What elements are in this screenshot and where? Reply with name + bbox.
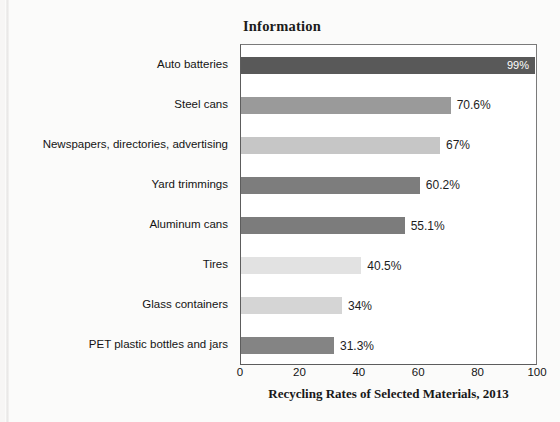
x-tick-label: 60 — [412, 366, 425, 378]
category-label: Aluminum cans — [149, 216, 228, 233]
bar-value-label: 34% — [348, 299, 372, 313]
bar — [241, 57, 535, 74]
bar-value-label: 55.1% — [411, 219, 445, 233]
bar-value-label: 40.5% — [367, 259, 401, 273]
x-tick-label: 0 — [237, 366, 243, 378]
category-label: Glass containers — [142, 296, 228, 313]
bar-row: 99% — [241, 57, 538, 74]
x-tick-label: 40 — [352, 366, 365, 378]
bar-value-label: 60.2% — [426, 178, 460, 192]
category-label: Auto batteries — [157, 56, 228, 73]
bar — [241, 137, 440, 154]
bar-row: 40.5% — [241, 257, 538, 274]
category-label: Tires — [203, 256, 228, 273]
bar-value-label: 70.6% — [457, 98, 491, 112]
bar — [241, 217, 405, 234]
category-label: Steel cans — [174, 96, 228, 113]
bar — [241, 337, 334, 354]
category-axis-labels: Auto batteriesSteel cansNewspapers, dire… — [0, 44, 234, 365]
chart-caption: Recycling Rates of Selected Materials, 2… — [240, 386, 537, 402]
bar — [241, 257, 361, 274]
bar-row: 55.1% — [241, 217, 538, 234]
bar — [241, 297, 342, 314]
category-label: Yard trimmings — [152, 176, 228, 193]
bar-row: 60.2% — [241, 177, 538, 194]
bar-row: 34% — [241, 297, 538, 314]
x-tick-label: 20 — [293, 366, 306, 378]
bar-row: 70.6% — [241, 97, 538, 114]
x-tick-label: 80 — [471, 366, 484, 378]
bar-value-label: 99% — [507, 59, 529, 71]
bar — [241, 97, 451, 114]
bar-value-label: 67% — [446, 138, 470, 152]
chart-title: Information — [243, 18, 321, 35]
x-tick-label: 100 — [527, 366, 546, 378]
category-label: PET plastic bottles and jars — [89, 336, 228, 353]
bar-value-label: 31.3% — [340, 339, 374, 353]
bar-row: 31.3% — [241, 337, 538, 354]
category-label: Newspapers, directories, advertising — [43, 136, 228, 153]
value-axis-ticks: 020406080100 — [240, 366, 537, 384]
figure-container: Information Auto batteriesSteel cansNews… — [0, 0, 560, 422]
bar — [241, 177, 420, 194]
plot-area: 99%70.6%67%60.2%55.1%40.5%34%31.3% — [240, 44, 537, 365]
bar-row: 67% — [241, 137, 538, 154]
bars-layer: 99%70.6%67%60.2%55.1%40.5%34%31.3% — [241, 45, 536, 364]
